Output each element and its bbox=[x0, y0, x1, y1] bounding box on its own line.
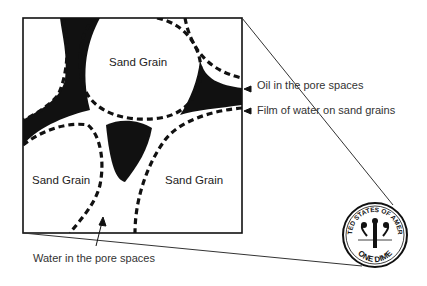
label-sand-grain-left: Sand Grain bbox=[32, 175, 90, 187]
magnified-pore-view bbox=[23, 18, 242, 233]
pore-space-diagram: UNITED STATES OF AMERICA ONE DIME Sand G… bbox=[0, 0, 427, 286]
label-sand-grain-top: Sand Grain bbox=[109, 57, 167, 69]
oil-blob-center bbox=[106, 121, 152, 182]
label-oil-pores: Oil in the pore spaces bbox=[257, 80, 363, 91]
label-sand-grain-right: Sand Grain bbox=[165, 175, 223, 187]
dime-coin-icon: UNITED STATES OF AMERICA ONE DIME bbox=[0, 0, 407, 267]
label-water-pores: Water in the pore spaces bbox=[33, 253, 155, 264]
diagram-graphic: UNITED STATES OF AMERICA ONE DIME bbox=[0, 0, 427, 286]
label-water-film: Film of water on sand grains bbox=[257, 105, 395, 116]
oil-blob-upper-right bbox=[180, 60, 242, 115]
